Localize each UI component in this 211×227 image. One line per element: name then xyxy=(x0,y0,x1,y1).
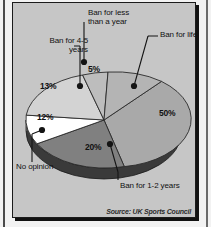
callout-label-no-opinion: No opinion xyxy=(16,162,53,171)
source-note: Source: UK Sports Council xyxy=(106,208,191,215)
dot-ban-4-5-years xyxy=(77,83,83,89)
callout-label-ban-1-2-years: Ban for 1-2 years xyxy=(120,181,180,190)
callout-label-ban-for-life: Ban for life xyxy=(160,30,197,39)
value-label-ban-1-2-years: 20% xyxy=(85,142,101,152)
callout-label-ban-4-5-years: Ban for 4-5 years xyxy=(16,36,88,54)
dot-ban-for-life xyxy=(131,83,137,89)
value-label-ban-for-life: 50% xyxy=(159,108,175,118)
callout-label-ban-less-than-year: Ban for less than a year xyxy=(88,8,129,26)
value-label-ban-4-5-years: 13% xyxy=(40,81,56,91)
dot-ban-less-than-year xyxy=(81,59,87,65)
outer-frame-right-rule xyxy=(206,0,208,227)
frame-drop-shadow-bottom xyxy=(15,218,199,221)
value-label-ban-less-than-year: 5% xyxy=(88,64,100,74)
dot-no-opinion xyxy=(39,127,45,133)
dot-ban-1-2-years xyxy=(107,141,113,147)
plot-area: Ban for less than a year Ban for life Ba… xyxy=(12,2,196,218)
pie-chart-figure: Ban for less than a year Ban for life Ba… xyxy=(0,0,211,227)
value-label-no-opinion: 12% xyxy=(37,112,53,122)
outer-frame-left-rule xyxy=(3,0,5,227)
